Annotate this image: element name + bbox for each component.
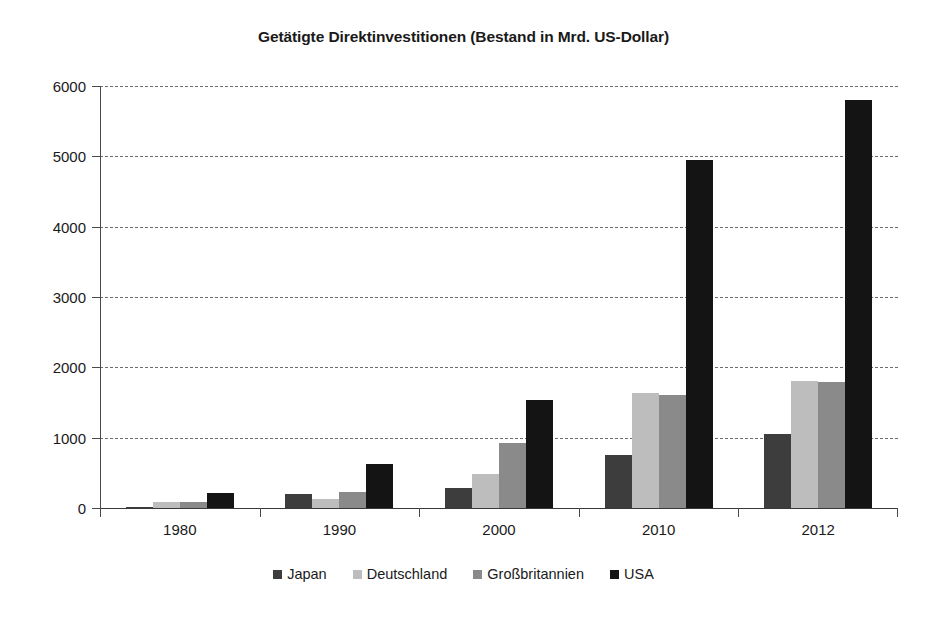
legend-swatch-icon	[353, 570, 362, 579]
bar-group-2000	[419, 86, 579, 508]
x-axis-label-2000: 2000	[482, 521, 515, 538]
bar-deutschland-2012[interactable]	[791, 381, 818, 508]
bar-usa-2012[interactable]	[845, 100, 872, 508]
y-tick-mark-2000	[92, 367, 101, 368]
legend-swatch-icon	[273, 570, 282, 579]
x-axis-labels: 19801990200020102012	[100, 521, 898, 545]
y-tick-mark-1000	[92, 438, 101, 439]
bar-usa-1980[interactable]	[207, 493, 234, 508]
bar-großbritannien-1990[interactable]	[339, 492, 366, 508]
x-axis-label-1980: 1980	[163, 521, 196, 538]
bar-deutschland-1990[interactable]	[312, 499, 339, 508]
legend-swatch-icon	[473, 570, 482, 579]
chart-legend: JapanDeutschlandGroßbritannienUSA	[0, 566, 927, 582]
bar-japan-1990[interactable]	[285, 494, 312, 508]
bar-deutschland-2000[interactable]	[472, 474, 499, 508]
legend-label: Japan	[287, 566, 327, 582]
x-tick-mark-1	[260, 508, 261, 517]
y-axis-tick-label: 2000	[0, 359, 86, 376]
y-axis-labels: 0100020003000400050006000	[0, 86, 86, 508]
y-tick-mark-5000	[92, 156, 101, 157]
y-axis-tick-label: 6000	[0, 78, 86, 95]
y-axis-tick-label: 4000	[0, 218, 86, 235]
bar-japan-2000[interactable]	[445, 488, 472, 508]
x-tick-marks	[100, 508, 898, 517]
bar-deutschland-2010[interactable]	[632, 393, 659, 508]
bar-group-2012	[738, 86, 898, 508]
legend-label: Großbritannien	[487, 566, 584, 582]
bar-usa-2000[interactable]	[526, 400, 553, 508]
legend-label: Deutschland	[367, 566, 448, 582]
legend-entry-großbritannien[interactable]: Großbritannien	[473, 566, 584, 582]
y-axis-tick-label: 5000	[0, 148, 86, 165]
legend-entry-japan[interactable]: Japan	[273, 566, 327, 582]
legend-entry-deutschland[interactable]: Deutschland	[353, 566, 448, 582]
chart-title: Getätigte Direktinvestitionen (Bestand i…	[0, 28, 927, 46]
bar-usa-1990[interactable]	[366, 464, 393, 508]
bar-großbritannien-2000[interactable]	[499, 443, 526, 508]
legend-label: USA	[624, 566, 654, 582]
bar-group-1980	[100, 86, 260, 508]
bar-japan-2012[interactable]	[764, 434, 791, 508]
y-tick-mark-6000	[92, 86, 101, 87]
bar-großbritannien-2010[interactable]	[659, 395, 686, 508]
legend-swatch-icon	[610, 570, 619, 579]
x-tick-mark-5	[897, 508, 898, 517]
x-axis-label-2012: 2012	[802, 521, 835, 538]
x-axis-label-1990: 1990	[323, 521, 356, 538]
bar-group-1990	[260, 86, 420, 508]
y-tick-mark-4000	[92, 227, 101, 228]
y-axis-tick-label: 1000	[0, 429, 86, 446]
x-tick-mark-0	[100, 508, 101, 517]
x-tick-mark-3	[579, 508, 580, 517]
bar-group-2010	[579, 86, 739, 508]
legend-entry-usa[interactable]: USA	[610, 566, 654, 582]
plot-area	[100, 86, 898, 508]
y-axis-tick-label: 0	[0, 500, 86, 517]
y-tick-marks	[92, 86, 101, 508]
x-tick-mark-4	[738, 508, 739, 517]
y-axis-tick-label: 3000	[0, 289, 86, 306]
bar-usa-2010[interactable]	[686, 160, 713, 508]
bar-japan-2010[interactable]	[605, 455, 632, 508]
bar-großbritannien-2012[interactable]	[818, 382, 845, 508]
x-tick-mark-2	[419, 508, 420, 517]
y-tick-mark-3000	[92, 297, 101, 298]
x-axis-label-2010: 2010	[642, 521, 675, 538]
chart-figure: Getätigte Direktinvestitionen (Bestand i…	[0, 0, 927, 630]
